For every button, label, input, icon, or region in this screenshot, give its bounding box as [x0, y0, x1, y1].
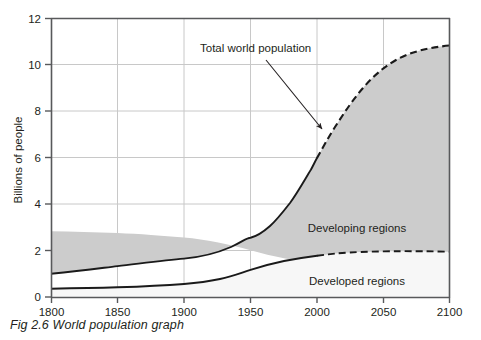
- ytick-label-2: 2: [35, 245, 41, 257]
- xtick-label-2050: 2050: [371, 306, 397, 318]
- xtick-label-2000: 2000: [304, 306, 330, 318]
- ytick-label-6: 6: [35, 152, 41, 164]
- total-world-population-annotation-label: Total world population: [200, 42, 311, 54]
- ytick-label-12: 12: [28, 13, 41, 25]
- xtick-label-2100: 2100: [437, 306, 463, 318]
- y-axis-title: Billions of people: [12, 117, 24, 204]
- world-population-chart: 12 10 8 6 4 2 0 1800 1850 1900 1950 2000…: [0, 0, 481, 340]
- xtick-label-1800: 1800: [39, 306, 65, 318]
- xtick-label-1850: 1850: [105, 306, 131, 318]
- figure-container: 12 10 8 6 4 2 0 1800 1850 1900 1950 2000…: [0, 0, 481, 340]
- ytick-label-8: 8: [35, 105, 41, 117]
- developed-regions-label: Developed regions: [309, 275, 405, 287]
- xtick-label-1900: 1900: [171, 306, 197, 318]
- ytick-label-4: 4: [35, 198, 42, 210]
- xtick-label-1950: 1950: [238, 306, 264, 318]
- figure-caption: Fig 2.6 World population graph: [10, 318, 184, 332]
- ytick-label-0: 0: [35, 291, 41, 303]
- developing-regions-label: Developing regions: [308, 222, 407, 234]
- ytick-label-10: 10: [28, 59, 41, 71]
